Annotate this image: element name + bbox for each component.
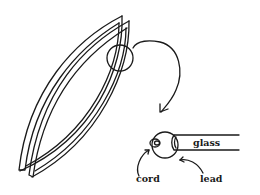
detail-view bbox=[138, 132, 239, 176]
cord-label: cord bbox=[136, 174, 160, 184]
diagram-canvas bbox=[0, 0, 260, 195]
glass-label: glass bbox=[193, 138, 220, 148]
lead-label: lead bbox=[200, 174, 222, 184]
pointer-arrow bbox=[133, 41, 180, 112]
lens-frame-back bbox=[29, 21, 129, 177]
